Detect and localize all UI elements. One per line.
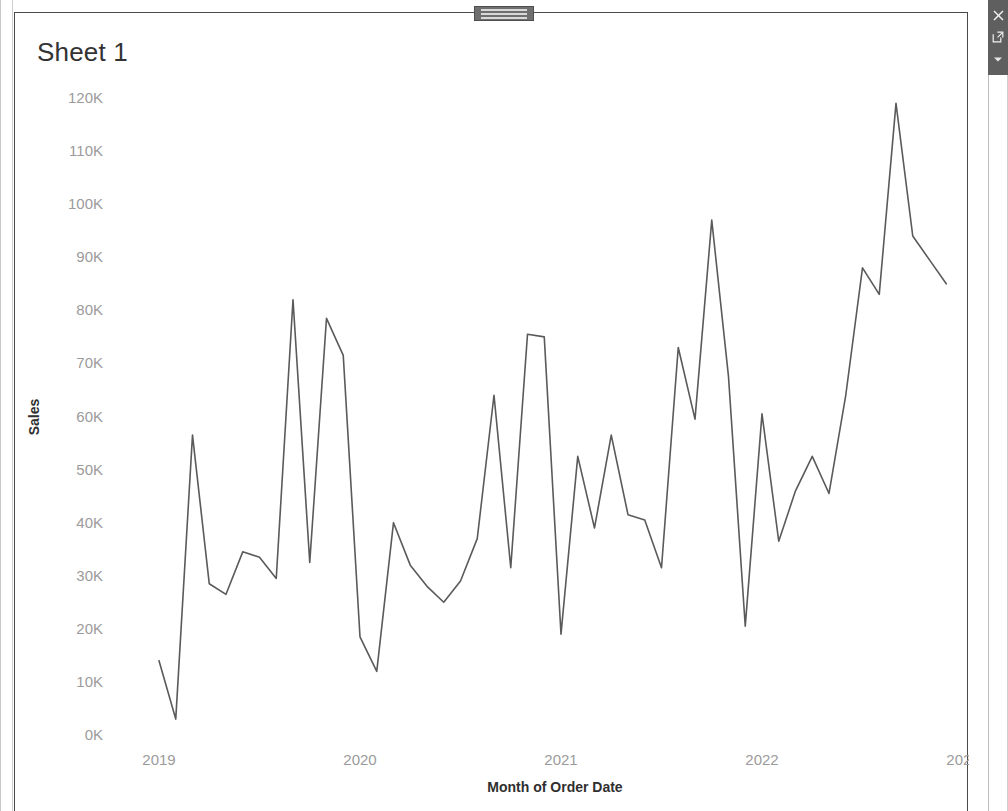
y-axis-tick-label: 40K (76, 514, 103, 531)
grip-line (481, 9, 527, 11)
y-axis-tick-label: 50K (76, 461, 103, 478)
popout-icon[interactable] (988, 26, 1008, 48)
x-axis-tick-label: 2019 (142, 751, 175, 768)
x-axis-tick-label: 2022 (745, 751, 778, 768)
x-axis-tick-labels: 20192020202120222023 (142, 751, 969, 768)
y-axis-tick-labels: 0K10K20K30K40K50K60K70K80K90K100K110K120… (68, 89, 103, 743)
y-axis-tick-label: 100K (68, 195, 103, 212)
worksheet-panel: Sheet 1 0K10K20K30K40K50K60K70K80K90K100… (14, 12, 968, 811)
worksheet-side-toolbar (988, 0, 1008, 75)
grip-line (481, 13, 527, 15)
y-axis-tick-label: 10K (76, 673, 103, 690)
y-axis-tick-label: 20K (76, 620, 103, 637)
window-left-rail-inner (12, 0, 13, 811)
x-axis-tick-label: 2023 (946, 751, 969, 768)
sales-line-chart[interactable]: 0K10K20K30K40K50K60K70K80K90K100K110K120… (15, 13, 969, 811)
y-axis-tick-label: 110K (69, 142, 103, 159)
chevron-down-icon[interactable] (988, 48, 1008, 70)
y-axis-tick-label: 60K (76, 408, 103, 425)
y-axis-title: Sales (26, 398, 42, 435)
y-axis-tick-label: 120K (68, 89, 103, 106)
sales-line-path (159, 103, 946, 719)
window-left-rail-outer (0, 0, 1, 811)
y-axis-tick-label: 90K (76, 248, 103, 265)
x-axis-tick-label: 2021 (544, 751, 577, 768)
grip-line (481, 17, 527, 19)
tableau-worksheet-window: Sheet 1 0K10K20K30K40K50K60K70K80K90K100… (0, 0, 1008, 811)
x-axis-title: Month of Order Date (487, 779, 623, 795)
side-toolbar-track (988, 75, 1008, 811)
x-axis-tick-label: 2020 (343, 751, 376, 768)
chart-canvas[interactable]: 0K10K20K30K40K50K60K70K80K90K100K110K120… (15, 13, 969, 811)
panel-drag-handle[interactable] (474, 6, 534, 21)
close-icon[interactable] (988, 4, 1008, 26)
y-axis-tick-label: 70K (76, 354, 103, 371)
y-axis-tick-label: 30K (76, 567, 103, 584)
y-axis-tick-label: 80K (76, 301, 103, 318)
y-axis-tick-label: 0K (85, 726, 103, 743)
